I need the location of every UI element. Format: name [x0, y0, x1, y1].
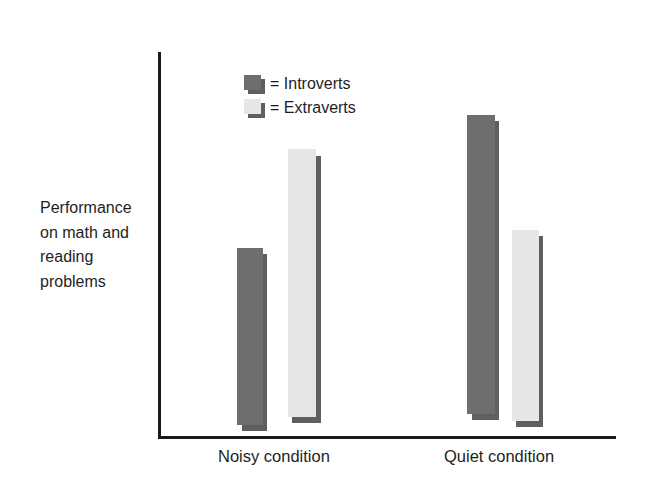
introverts-swatch-icon — [244, 75, 264, 93]
chart-legend: = Introverts = Extraverts — [244, 72, 356, 120]
legend-item-introverts: = Introverts — [244, 72, 356, 96]
legend-label-introverts: = Introverts — [270, 75, 350, 93]
y-axis-label-line-2: on math and — [40, 221, 155, 246]
x-category-noisy: Noisy condition — [218, 447, 330, 466]
y-axis-label-line-3: reading — [40, 245, 155, 270]
legend-item-extraverts: = Extraverts — [244, 96, 356, 120]
bar-noisy-introverts — [237, 248, 267, 431]
bar-chart-figure: Performance on math and reading problems… — [0, 0, 668, 492]
legend-label-extraverts: = Extraverts — [270, 99, 356, 117]
y-axis-label-line-1: Performance — [40, 196, 155, 221]
x-category-quiet: Quiet condition — [444, 447, 554, 466]
extraverts-swatch-icon — [244, 99, 264, 117]
y-axis-label-line-4: problems — [40, 270, 155, 295]
bar-noisy-extraverts — [288, 149, 321, 423]
bar-quiet-introverts — [467, 115, 499, 420]
y-axis-label: Performance on math and reading problems — [40, 196, 155, 294]
bar-quiet-extraverts — [512, 230, 543, 427]
x-axis — [158, 436, 616, 439]
y-axis — [158, 52, 161, 439]
